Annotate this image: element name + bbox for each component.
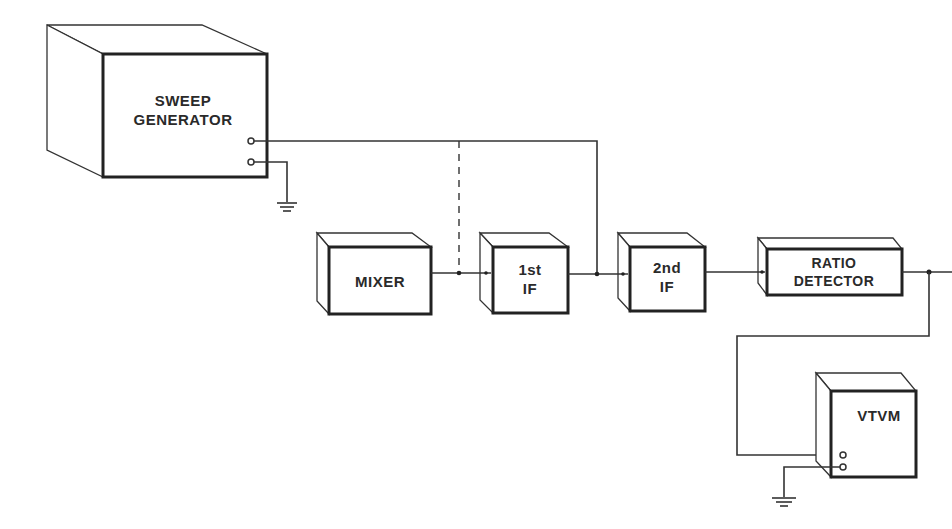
first-if-label-line1: 1st [518,261,541,278]
second-if-label-line1: 2nd [653,259,681,276]
vtvm-label: VTVM [857,407,901,424]
vtvm-input-terminal [840,452,846,458]
second-if-label-line2: IF [660,278,674,295]
block-diagram: SWEEP GENERATOR MIXER 1st IF 2nd IF [0,0,952,529]
first-if-block: 1st IF [480,233,568,313]
second-if-block: 2nd IF [618,233,705,311]
ground-icon [772,498,796,506]
ratio-detector-label-line2: DETECTOR [794,273,875,289]
sweep-generator-ground-terminal [248,159,254,165]
ratio-detector-block: RATIO DETECTOR [758,238,902,295]
arrow-tip [760,270,764,274]
first-if-label-line2: IF [523,280,537,297]
junction-dot [595,272,600,277]
sweep-generator-label-line2: GENERATOR [134,111,233,128]
mixer-block: MIXER [317,233,431,314]
junction-dot [457,271,462,276]
sweep-generator-output-terminal [248,138,254,144]
sweep-generator-label-line1: SWEEP [155,92,212,109]
arrow-tip [621,272,625,276]
mixer-label: MIXER [355,273,405,290]
vtvm-block: VTVM [816,373,916,477]
ground-icon [277,203,297,211]
vtvm-ground-terminal [840,464,846,470]
sweep-generator-block: SWEEP GENERATOR [47,25,267,177]
arrow-tip [484,271,488,275]
ratio-detector-label-line1: RATIO [811,255,856,271]
